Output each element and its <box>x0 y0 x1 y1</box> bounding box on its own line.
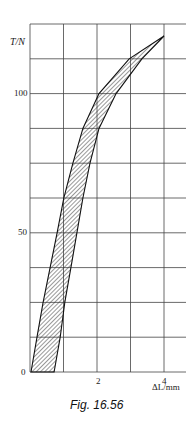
y-axis-label: T/N <box>10 36 25 47</box>
y-tick-100: 100 <box>14 88 28 98</box>
x-tick-2: 2 <box>96 376 101 386</box>
y-tick-50: 50 <box>18 227 27 237</box>
figure-caption: Fig. 16.56 <box>70 398 123 412</box>
x-axis-label: ΔL/mm <box>152 382 180 392</box>
hysteresis-loop <box>31 36 164 372</box>
y-tick-0: 0 <box>21 367 26 377</box>
hysteresis-chart <box>0 0 195 421</box>
